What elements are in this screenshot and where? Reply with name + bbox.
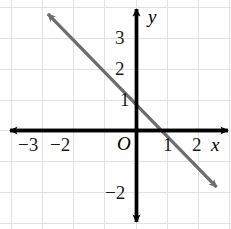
x-tick-label-neg2: −2 <box>50 135 70 154</box>
x-tick-label-2: 2 <box>192 135 202 154</box>
y-tick-label-3: 3 <box>115 28 125 47</box>
y-tick-label-1: 1 <box>120 90 130 109</box>
x-tick-label-neg3: −3 <box>18 135 38 154</box>
y-axis-name-label: y <box>148 7 156 26</box>
y-tick-label-neg2: −2 <box>105 183 125 202</box>
x-tick-label-1: 1 <box>163 135 173 154</box>
y-tick-label-2: 2 <box>115 59 125 78</box>
x-axis-name-label: x <box>211 135 219 154</box>
origin-label: O <box>117 134 131 153</box>
coordinate-plane-figure: y x O 3 2 1 −2 −3 −2 1 2 <box>0 0 231 229</box>
